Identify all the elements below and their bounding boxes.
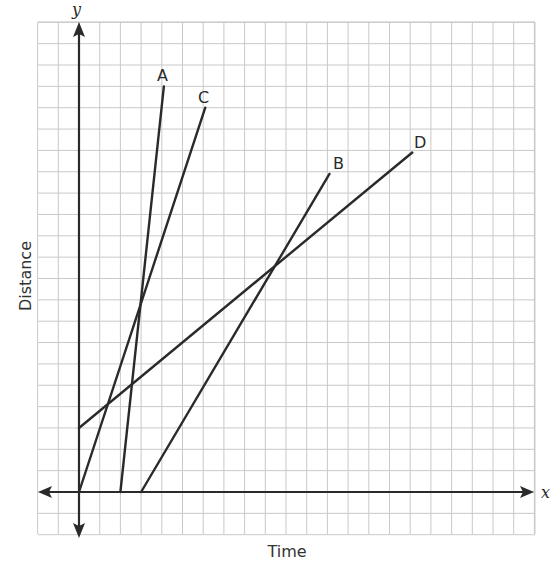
x-axis-title: Time <box>266 542 306 561</box>
series-label-d: D <box>414 133 426 152</box>
x-axis-variable: x <box>541 483 550 502</box>
series-line-a <box>120 86 163 492</box>
series-line-b <box>141 174 329 492</box>
series-lines <box>79 86 412 492</box>
y-axis <box>73 22 85 538</box>
distance-time-chart: A C B D y x Time Distance <box>0 0 550 562</box>
y-axis-variable: y <box>71 0 82 19</box>
series-line-d <box>79 153 412 428</box>
series-label-b: B <box>333 154 344 173</box>
grid <box>38 22 535 535</box>
y-axis-title: Distance <box>16 241 35 311</box>
series-label-c: C <box>198 88 209 107</box>
series-label-a: A <box>157 66 168 85</box>
